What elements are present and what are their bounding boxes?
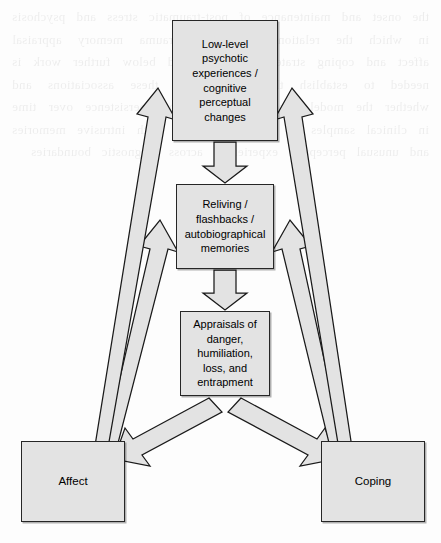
node-low-level-psychotic: Low-level psychotic experiences / cognit… <box>172 20 278 141</box>
arrow-psychotic-to-reliving <box>203 142 247 183</box>
arrow-appraisals-to-affect <box>114 398 222 466</box>
arrow-appraisals-to-coping <box>228 398 336 466</box>
figure-canvas: the onset and maintenance of post-trauma… <box>0 0 441 543</box>
node-coping: Coping <box>321 441 425 522</box>
node-affect-label: Affect <box>52 474 93 489</box>
node-reliving-flashbacks: Reliving / flashbacks / autobiographical… <box>176 184 274 269</box>
node-appraisals-label: Appraisals of danger, humiliation, loss,… <box>181 317 269 390</box>
node-affect: Affect <box>21 441 125 522</box>
node-coping-label: Coping <box>349 474 397 489</box>
arrow-reliving-to-appraisals <box>203 270 247 310</box>
node-low-level-psychotic-label: Low-level psychotic experiences / cognit… <box>173 37 277 125</box>
node-reliving-flashbacks-label: Reliving / flashbacks / autobiographical… <box>177 197 273 255</box>
node-appraisals: Appraisals of danger, humiliation, loss,… <box>180 311 270 396</box>
